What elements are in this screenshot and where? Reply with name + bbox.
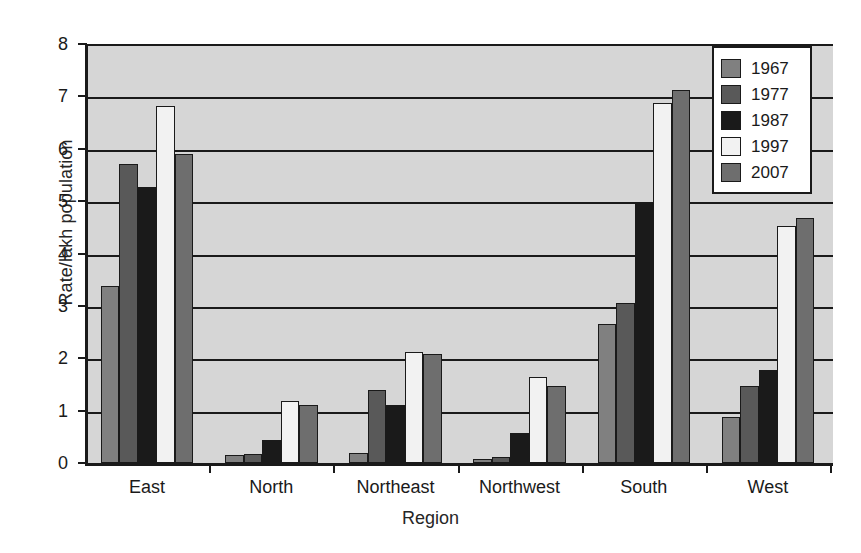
y-tick-mark — [78, 357, 87, 359]
x-tick-mark — [458, 463, 460, 473]
legend-item[interactable]: 1987 — [721, 107, 802, 133]
bar — [386, 405, 405, 463]
bar — [598, 324, 617, 463]
bar — [244, 454, 263, 463]
legend-swatch-icon — [721, 59, 741, 78]
x-tick-mark — [582, 463, 584, 473]
y-tick-label: 3 — [30, 297, 68, 315]
y-tick-label: 5 — [30, 192, 68, 210]
x-tick-mark — [830, 463, 832, 473]
bar — [473, 459, 492, 463]
x-tick-mark — [209, 463, 211, 473]
legend-label: 1967 — [751, 60, 789, 77]
legend-swatch-icon — [721, 111, 741, 130]
bar — [635, 204, 654, 463]
bar-cluster — [349, 44, 442, 463]
bar — [510, 433, 529, 463]
legend-item[interactable]: 1977 — [721, 81, 802, 107]
x-tick-label: Northeast — [356, 477, 434, 498]
y-tick-mark — [78, 200, 87, 202]
y-tick-label: 6 — [30, 140, 68, 158]
bar — [759, 370, 778, 463]
bar-cluster — [101, 44, 194, 463]
y-tick-label: 0 — [30, 454, 68, 472]
y-tick-label: 4 — [30, 245, 68, 263]
legend-swatch-icon — [721, 163, 741, 182]
x-tick-mark — [333, 463, 335, 473]
bar — [616, 303, 635, 463]
legend-item[interactable]: 2007 — [721, 159, 802, 185]
x-tick-label: North — [249, 477, 293, 498]
bar-cluster — [225, 44, 318, 463]
y-tick-mark — [78, 43, 87, 45]
y-tick-mark — [78, 305, 87, 307]
bar — [672, 90, 691, 463]
y-axis-tick-labels: 012345678 — [30, 0, 68, 553]
bar — [299, 405, 318, 463]
y-tick-mark — [78, 410, 87, 412]
y-tick-mark — [78, 253, 87, 255]
bar — [423, 354, 442, 463]
y-tick-label: 1 — [30, 402, 68, 420]
x-tick-label: South — [620, 477, 667, 498]
legend-label: 1997 — [751, 138, 789, 155]
y-tick-label: 2 — [30, 349, 68, 367]
legend-item[interactable]: 1997 — [721, 133, 802, 159]
x-tick-label: Northwest — [479, 477, 560, 498]
legend-label: 2007 — [751, 164, 789, 181]
bar — [101, 286, 120, 463]
bar — [281, 401, 300, 463]
bar-cluster — [473, 44, 566, 463]
bar-cluster — [598, 44, 691, 463]
y-tick-mark — [78, 95, 87, 97]
y-tick-label: 7 — [30, 87, 68, 105]
x-tick-label: West — [748, 477, 789, 498]
y-tick-mark — [78, 462, 87, 464]
bar — [796, 218, 815, 463]
y-tick-label: 8 — [30, 35, 68, 53]
legend-label: 1977 — [751, 86, 789, 103]
bar — [225, 455, 244, 463]
x-tick-label: East — [129, 477, 165, 498]
legend-swatch-icon — [721, 85, 741, 104]
bar — [138, 187, 157, 463]
y-tick-mark — [78, 148, 87, 150]
chart-legend: 19671977198719972007 — [712, 46, 812, 194]
bar — [156, 106, 175, 463]
legend-label: 1987 — [751, 112, 789, 129]
bar — [405, 352, 424, 463]
bar — [262, 440, 281, 463]
bar — [740, 386, 759, 463]
x-tick-mark — [706, 463, 708, 473]
bar — [492, 457, 511, 463]
legend-item[interactable]: 1967 — [721, 55, 802, 81]
bar — [119, 164, 138, 463]
bar — [777, 226, 796, 463]
bar-chart-figure: Rate/lakh population 012345678 Region 19… — [0, 0, 861, 553]
bar — [175, 154, 194, 463]
bar — [529, 377, 548, 463]
x-axis-title: Region — [0, 508, 861, 529]
legend-swatch-icon — [721, 137, 741, 156]
bar — [653, 103, 672, 463]
bar — [547, 386, 566, 464]
bar — [349, 453, 368, 463]
bar — [368, 390, 387, 463]
bar — [722, 417, 741, 463]
